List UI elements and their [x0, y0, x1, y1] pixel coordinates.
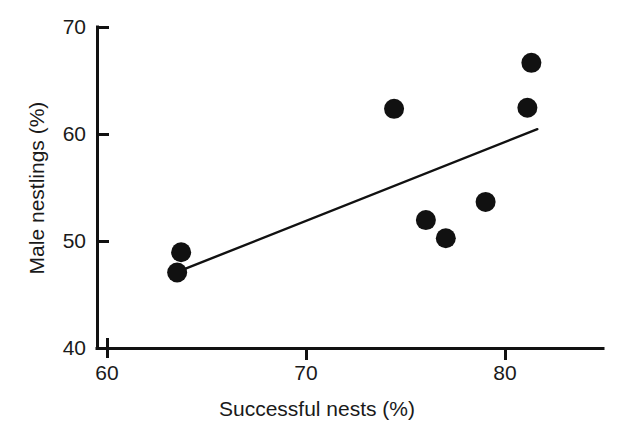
scatter-plot-figure: 70 60 50 40 60 70 80 Successful nests (%… — [0, 0, 634, 438]
data-point — [517, 98, 537, 118]
data-point — [521, 53, 541, 73]
x-tick-label-80: 80 — [475, 362, 535, 383]
data-point — [384, 99, 404, 119]
data-point — [436, 228, 456, 248]
y-axis-title: Male nestlings (%) — [26, 18, 47, 358]
data-point — [416, 210, 436, 230]
data-point-group — [167, 53, 541, 283]
x-tick-label-70: 70 — [276, 362, 336, 383]
x-tick-label-60: 60 — [77, 362, 137, 383]
data-point — [167, 263, 187, 283]
x-axis-title: Successful nests (%) — [0, 398, 634, 419]
data-point — [171, 242, 191, 262]
data-point — [476, 192, 496, 212]
